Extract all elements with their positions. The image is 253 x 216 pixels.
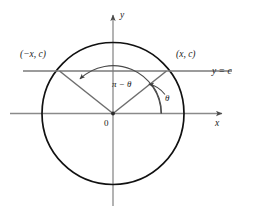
origin-label: 0 — [104, 118, 109, 128]
diagram-canvas: (−x, c) (x, c) y = c y x 0 π − θ θ — [0, 0, 253, 216]
y-axis-label: y — [119, 10, 125, 20]
point-right-label: (x, c) — [176, 49, 196, 60]
circle-diagram-figure: (−x, c) (x, c) y = c y x 0 π − θ θ — [0, 0, 253, 216]
angle-theta-label: θ — [165, 93, 170, 103]
angle-arc-supplement — [80, 66, 161, 114]
radius-to-right-point — [113, 71, 167, 114]
origin-dot — [111, 112, 115, 116]
x-axis-label: x — [214, 118, 220, 128]
angle-supplement-label: π − θ — [112, 79, 132, 89]
radius-to-left-point — [60, 71, 114, 114]
point-left-label: (−x, c) — [20, 49, 46, 60]
line-equation-label: y = c — [211, 66, 232, 76]
